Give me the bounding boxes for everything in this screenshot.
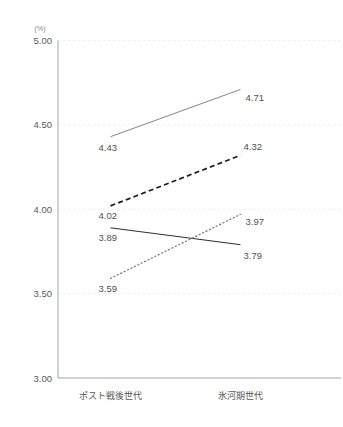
data-label: 4.43 <box>99 142 118 153</box>
y-axis-tick-label: 5.00 <box>34 35 53 46</box>
line-chart: 5.004.504.003.503.00 (%) 4.434.714.024.3… <box>0 0 343 427</box>
series-line-series-2 <box>111 155 241 206</box>
x-axis-tick-labels: ポスト戦後世代氷河期世代 <box>79 390 263 401</box>
x-axis-tick-label: 氷河期世代 <box>218 390 263 401</box>
x-axis-tick-label: ポスト戦後世代 <box>79 390 142 401</box>
series-lines <box>111 89 241 278</box>
chart-canvas: 5.004.504.003.503.00 (%) 4.434.714.024.3… <box>0 0 343 427</box>
data-label: 4.71 <box>246 92 265 103</box>
data-point-labels: 4.434.714.024.323.893.793.593.97 <box>99 92 265 294</box>
data-label: 3.97 <box>246 216 265 227</box>
y-axis-tick-labels: 5.004.504.003.503.00 <box>34 35 53 384</box>
series-line-series-4 <box>111 214 241 278</box>
data-label: 3.79 <box>244 250 263 261</box>
data-label: 4.02 <box>99 210 118 221</box>
data-label: 3.59 <box>99 283 118 294</box>
y-axis-tick-label: 4.50 <box>34 119 53 130</box>
y-axis-tick-label: 3.50 <box>34 288 53 299</box>
data-label: 3.89 <box>99 232 118 243</box>
y-axis-tick-label: 3.00 <box>34 373 53 384</box>
y-axis-unit-label: (%) <box>34 24 46 33</box>
series-line-series-1 <box>111 89 241 136</box>
y-axis-tick-label: 4.00 <box>34 204 53 215</box>
data-label: 4.32 <box>244 141 263 152</box>
y-axis-unit-label: (%) <box>34 24 46 33</box>
series-line-series-3 <box>111 228 241 245</box>
